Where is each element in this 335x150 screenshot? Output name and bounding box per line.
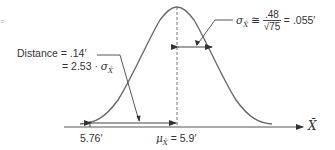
distance-sigma-symbol: σ [101, 60, 108, 72]
sigma-formula: σX̄ ≅ .48 √75 = .055′ [236, 9, 315, 33]
distance-label-line1: Distance = .14′ [17, 48, 86, 59]
distance-label-multiple: = 2.53 · [62, 60, 98, 72]
distance-label-line2: = 2.53 · σX̄ [62, 61, 113, 72]
sigma-fraction: .48 √75 [263, 9, 281, 33]
distance-label-word: Distance [17, 47, 58, 59]
fraction-denominator: √75 [263, 21, 281, 33]
mu-sub: X̄ [163, 139, 168, 147]
tick-label-5-76: 5.76′ [80, 133, 102, 144]
sigma-sub: X̄ [243, 21, 248, 29]
x-axis-label: X̄ [308, 120, 317, 132]
sigma-result: = .055′ [284, 14, 315, 26]
sigma-leader-line [197, 20, 233, 45]
distance-label-value: = .14′ [61, 47, 87, 59]
mean-value: = 5.9′ [171, 132, 197, 144]
distance-sigma-sub: X̄ [108, 67, 113, 75]
mu-symbol: μ [156, 132, 163, 144]
diagram-canvas: = Distance = .14′ = 2.53 · σX̄ [0, 0, 335, 150]
approx-sign: ≅ [251, 14, 260, 26]
fraction-numerator: .48 [263, 9, 281, 21]
mean-label: μX̄ = 5.9′ [156, 133, 196, 144]
